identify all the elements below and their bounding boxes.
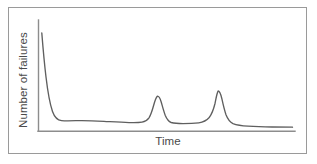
figure-root: Number of failures Time xyxy=(0,0,317,164)
failure-curve-line xyxy=(42,33,293,127)
y-axis-label: Number of failures xyxy=(15,18,31,128)
x-axis-label: Time xyxy=(118,134,218,148)
